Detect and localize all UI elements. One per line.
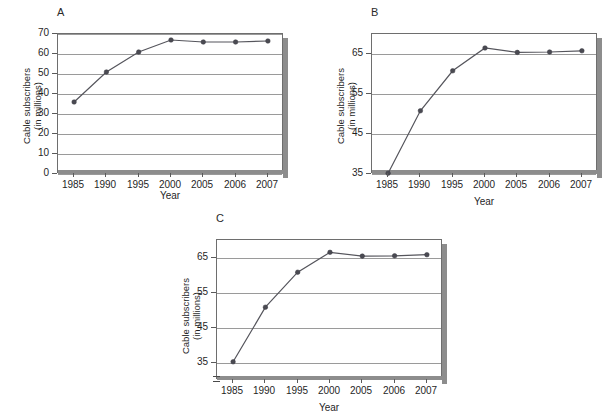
figure-root: { "figure": { "axis_label_y_line1": "Cab… — [0, 0, 612, 418]
panel-c-x-tick-mark — [232, 379, 233, 383]
panel-c-plot-frame — [216, 239, 442, 379]
panel-c-letter: C — [216, 212, 224, 224]
panel-a-y-tick-label: 60 — [17, 47, 49, 58]
panel-a-y-tick-mark — [52, 133, 57, 134]
panel-b-y-axis-label: Cable subscribers (in millions) — [335, 51, 357, 161]
panel-b-series — [372, 34, 598, 174]
panel-c-x-tick-mark — [361, 379, 362, 383]
panel-b-x-tick-mark — [516, 173, 517, 177]
panel-b-data-point — [483, 46, 488, 51]
panel-a-x-tick-mark — [235, 173, 236, 177]
panel-b-x-tick-mark — [387, 173, 388, 177]
panel-a-data-point — [72, 100, 77, 105]
panel-a-x-axis-label: Year — [57, 190, 283, 201]
panel-a-y-tick-label: 0 — [17, 167, 49, 178]
panel-a-y-tick-mark — [52, 153, 57, 154]
panel-a-y-tick-mark — [52, 93, 57, 94]
panel-a-y-tick-label: 40 — [17, 87, 49, 98]
panel-c-data-point — [328, 250, 333, 255]
panel-b-y-tick-mark — [366, 93, 371, 94]
panel-c-y-tick-label: 65 — [176, 251, 208, 262]
panel-a-data-point — [136, 50, 141, 55]
panel-a-y-tick-label: 70 — [17, 27, 49, 38]
panel-c-series — [217, 240, 443, 380]
panel-b-plot-frame — [371, 33, 597, 173]
panel-c-x-tick-mark — [329, 379, 330, 383]
panel-c-data-point — [263, 305, 268, 310]
panel-a-y-tick-label: 10 — [17, 147, 49, 158]
panel-a-y-tick-mark — [52, 33, 57, 34]
panel-c-plot-area: 354555651985199019952000200520062007 — [216, 239, 442, 379]
panel-b-x-tick-label: 2007 — [561, 179, 601, 190]
panel-b-y-tick-mark — [366, 53, 371, 54]
panel-b-y-tick-mark — [366, 133, 371, 134]
panel-c-axis-break-icon — [213, 376, 220, 386]
panel-a-data-point — [104, 70, 109, 75]
panel-a-x-tick-mark — [138, 173, 139, 177]
panel-c-x-tick-mark — [297, 379, 298, 383]
panel-c-series-line — [233, 252, 427, 361]
panel-a-y-tick-label: 20 — [17, 127, 49, 138]
panel-c-x-axis-label: Year — [216, 402, 442, 413]
panel-b-data-point — [515, 50, 520, 55]
panel-b-y-tick-mark — [366, 173, 371, 174]
panel-c-data-point — [231, 360, 236, 365]
panel-a-y-tick-mark — [52, 113, 57, 114]
panel-c-y-tick-label: 45 — [176, 321, 208, 332]
panel-b-y-axis-label-line2: (in millions) — [346, 51, 357, 161]
panel-b-plot-area: 354555651985199019952000200520062007 — [371, 33, 597, 173]
panel-a-y-tick-mark — [52, 73, 57, 74]
panel-a-y-tick-mark — [52, 53, 57, 54]
panel-b-data-point — [547, 50, 552, 55]
panel-b-data-point — [450, 69, 455, 74]
panel-a-x-tick-mark — [267, 173, 268, 177]
panel-c-x-tick-mark — [264, 379, 265, 383]
panel-c-y-tick-mark — [211, 292, 216, 293]
panel-b-x-tick-mark — [581, 173, 582, 177]
panel-a-data-point — [201, 40, 206, 45]
panel-b-y-tick-label: 55 — [331, 87, 363, 98]
panel-a-x-tick-mark — [73, 173, 74, 177]
panel-c-x-tick-mark — [394, 379, 395, 383]
panel-b-x-tick-mark — [549, 173, 550, 177]
panel-b-y-tick-label: 35 — [331, 167, 363, 178]
panel-b-y-tick-label: 45 — [331, 127, 363, 138]
panel-b-y-tick-label: 65 — [331, 47, 363, 58]
panel-a-data-point — [169, 38, 174, 43]
panel-b-y-axis-label-line1: Cable subscribers — [335, 51, 346, 161]
panel-c-y-tick-label: 35 — [176, 356, 208, 367]
panel-a-series-line — [74, 40, 268, 102]
panel-a-plot-frame — [57, 33, 283, 173]
panel-c-x-tick-mark — [426, 379, 427, 383]
panel-c-y-tick-mark — [211, 362, 216, 363]
panel-a-data-point — [233, 40, 238, 45]
panel-c-y-axis-label-line1: Cable subscribers — [180, 261, 191, 371]
panel-c-y-axis-label: Cable subscribers (in millions) — [180, 261, 202, 371]
panel-b-letter: B — [371, 6, 379, 18]
panel-c-x-tick-label: 2007 — [406, 385, 446, 396]
panel-b-data-point — [418, 109, 423, 114]
panel-c-y-tick-label: 55 — [176, 286, 208, 297]
panel-b-x-tick-mark — [484, 173, 485, 177]
panel-c-data-point — [295, 270, 300, 275]
panel-b-x-tick-mark — [419, 173, 420, 177]
panel-a-x-tick-mark — [202, 173, 203, 177]
panel-a-y-tick-label: 50 — [17, 67, 49, 78]
panel-c-y-axis-label-line2: (in millions) — [191, 261, 202, 371]
panel-c-data-point — [425, 252, 430, 257]
panel-a-data-point — [266, 39, 271, 44]
panel-b-series-line — [388, 48, 582, 173]
panel-c-data-point — [392, 254, 397, 259]
panel-a-x-tick-label: 2007 — [247, 179, 287, 190]
panel-c-y-tick-mark — [211, 257, 216, 258]
panel-a-series — [58, 34, 284, 174]
panel-a-x-tick-mark — [170, 173, 171, 177]
panel-a-plot-area: 0102030405060701985199019952000200520062… — [57, 33, 283, 173]
panel-a-y-tick-label: 30 — [17, 107, 49, 118]
panel-b-x-tick-mark — [452, 173, 453, 177]
panel-c-y-tick-mark — [211, 327, 216, 328]
panel-a-y-tick-mark — [52, 173, 57, 174]
panel-b-data-point — [580, 49, 585, 54]
panel-a-letter: A — [57, 6, 65, 18]
panel-b-x-axis-label: Year — [371, 196, 597, 207]
